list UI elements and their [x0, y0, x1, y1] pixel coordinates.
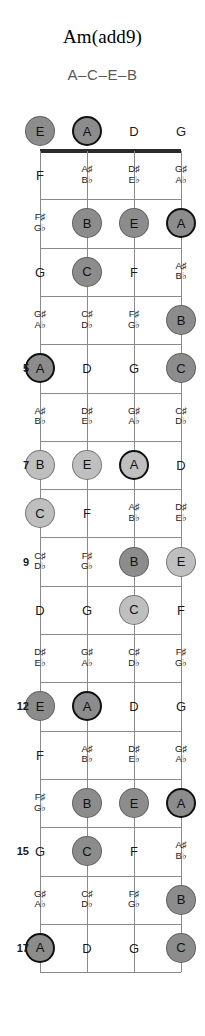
fret-line [40, 779, 181, 780]
note-marker-f9-s3[interactable]: B [119, 547, 149, 577]
note-label-f3-s3: F [117, 265, 151, 278]
note-marker-f17-s4[interactable]: C [166, 933, 196, 963]
note-marker-f4-s4[interactable]: B [166, 305, 196, 335]
note-label-f11-s1: D♯ E♭ [23, 648, 57, 669]
note-label-f4-s1: G♯ A♭ [23, 309, 57, 330]
note-marker-f9-s4[interactable]: E [166, 547, 196, 577]
note-label-f16-s1: G♯ A♭ [23, 889, 57, 910]
note-label-f12-s3: D [117, 700, 151, 713]
note-label-f14-s1: F♯ G♭ [23, 792, 57, 813]
note-label-f3-s1: G [23, 265, 57, 278]
fret-number-15: 15 [9, 845, 29, 857]
note-label-f5-s3: G [117, 362, 151, 375]
note-marker-f7-s3[interactable]: A [119, 450, 149, 480]
note-label-f6-s3: G♯ A♭ [117, 406, 151, 427]
note-marker-f17-s1[interactable]: A [25, 933, 55, 963]
fret-line [40, 441, 181, 442]
note-marker-f12-s1[interactable]: E [25, 691, 55, 721]
note-label-f1-s2: A♯ B♭ [70, 165, 104, 186]
note-label-f10-s2: G [70, 603, 104, 616]
fret-line [40, 489, 181, 490]
note-label-f13-s2: A♯ B♭ [70, 744, 104, 765]
fret-number-9: 9 [9, 556, 29, 568]
note-label-f11-s3: C♯ D♭ [117, 648, 151, 669]
note-marker-f2-s4[interactable]: A [166, 208, 196, 238]
nut-line [40, 149, 181, 153]
note-label-f8-s4: D♯ E♭ [164, 503, 198, 524]
note-label-f3-s4: A♯ B♭ [164, 261, 198, 282]
fret-line [40, 393, 181, 394]
note-label-f17-s3: G [117, 941, 151, 954]
note-label-f13-s1: F [23, 748, 57, 761]
note-label-f1-s3: D♯ E♭ [117, 165, 151, 186]
fret-line [40, 827, 181, 828]
note-label-f9-s2: F♯ G♭ [70, 551, 104, 572]
note-label-f5-s2: D [70, 362, 104, 375]
open-note-marker-A[interactable]: A [72, 116, 102, 146]
note-label-f13-s4: G♯ A♭ [164, 744, 198, 765]
note-label-f10-s1: D [23, 603, 57, 616]
open-note-label-D: D [117, 125, 151, 138]
note-label-f6-s2: D♯ E♭ [70, 406, 104, 427]
note-marker-f8-s1[interactable]: C [25, 498, 55, 528]
note-marker-f14-s4[interactable]: A [166, 788, 196, 818]
note-label-f17-s2: D [70, 941, 104, 954]
note-label-f8-s2: F [70, 507, 104, 520]
note-marker-f3-s2[interactable]: C [72, 257, 102, 287]
note-marker-f7-s1[interactable]: B [25, 450, 55, 480]
note-label-f6-s4: C♯ D♭ [164, 406, 198, 427]
note-label-f13-s3: D♯ E♭ [117, 744, 151, 765]
fret-line [40, 296, 181, 297]
open-note-label-G: G [164, 125, 198, 138]
fret-number-17: 17 [9, 942, 29, 954]
note-label-f6-s1: A♯ B♭ [23, 406, 57, 427]
note-marker-f16-s4[interactable]: B [166, 885, 196, 915]
note-marker-f5-s4[interactable]: C [166, 353, 196, 383]
fret-line [40, 586, 181, 587]
fret-line [40, 972, 181, 973]
note-label-f10-s4: F [164, 603, 198, 616]
fret-number-7: 7 [9, 459, 29, 471]
fret-line [40, 634, 181, 635]
note-label-f4-s2: C♯ D♭ [70, 309, 104, 330]
note-marker-f14-s2[interactable]: B [72, 788, 102, 818]
fret-line [40, 731, 181, 732]
note-label-f11-s2: G♯ A♭ [70, 648, 104, 669]
note-marker-f2-s3[interactable]: E [119, 208, 149, 238]
note-label-f16-s3: F♯ G♭ [117, 889, 151, 910]
note-label-f15-s3: F [117, 845, 151, 858]
fret-line [40, 876, 181, 877]
note-label-f2-s1: F♯ G♭ [23, 213, 57, 234]
fret-line [40, 248, 181, 249]
open-note-marker-E[interactable]: E [25, 116, 55, 146]
note-label-f11-s4: F♯ G♭ [164, 648, 198, 669]
fret-line [40, 199, 181, 200]
fret-line [40, 537, 181, 538]
note-marker-f10-s3[interactable]: C [119, 595, 149, 625]
note-marker-f5-s1[interactable]: A [25, 353, 55, 383]
note-label-f16-s2: C♯ D♭ [70, 889, 104, 910]
note-label-f8-s3: A♯ B♭ [117, 503, 151, 524]
note-label-f1-s1: F [23, 169, 57, 182]
fret-line [40, 924, 181, 925]
note-label-f4-s3: F♯ G♭ [117, 309, 151, 330]
note-label-f12-s4: G [164, 700, 198, 713]
note-marker-f2-s2[interactable]: B [72, 208, 102, 238]
note-marker-f15-s2[interactable]: C [72, 836, 102, 866]
fret-number-5: 5 [9, 362, 29, 374]
note-marker-f7-s2[interactable]: E [72, 450, 102, 480]
note-label-f15-s4: A♯ B♭ [164, 841, 198, 862]
note-label-f7-s4: D [164, 458, 198, 471]
fret-line [40, 682, 181, 683]
note-marker-f14-s3[interactable]: E [119, 788, 149, 818]
note-label-f1-s4: G♯ A♭ [164, 165, 198, 186]
fret-number-12: 12 [9, 700, 29, 712]
fret-line [40, 344, 181, 345]
bass-fretboard-diagram: EADGFA♯ B♭D♯ E♭G♯ A♭F♯ G♭BEAGCFA♯ B♭G♯ A… [0, 0, 205, 1036]
note-marker-f12-s2[interactable]: A [72, 691, 102, 721]
